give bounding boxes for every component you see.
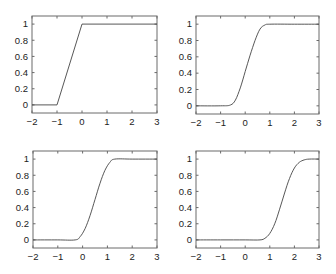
y-tick-label: 0.6 (179, 186, 192, 197)
subplot-top-right: −2−1012300.20.40.60.81 (179, 16, 322, 128)
x-tick-label: 3 (316, 117, 321, 128)
figure-2x2-subplots: −2−1012300.20.40.60.81 −2−1012300.20.40.… (0, 0, 336, 274)
y-tick-label: 0.4 (16, 202, 29, 213)
y-tick-label: 1 (23, 18, 28, 29)
y-tick-label: 0.6 (16, 186, 29, 197)
x-tick-label: 2 (130, 251, 135, 262)
axes-frame (196, 16, 319, 114)
x-tick-label: 1 (104, 116, 109, 127)
axes-frame (32, 16, 157, 113)
subplot-bottom-left: −2−1012300.20.40.60.81 (16, 151, 160, 262)
curve-smoothed-3 (196, 159, 319, 240)
x-tick-label: −2 (191, 251, 202, 262)
x-tick-label: 1 (267, 251, 272, 262)
y-tick-label: 0.6 (15, 51, 28, 62)
x-tick-label: −1 (52, 251, 63, 262)
x-tick-label: 0 (243, 251, 248, 262)
x-tick-label: 2 (292, 117, 297, 128)
y-tick-label: 1 (187, 18, 192, 29)
y-tick-label: 0.8 (179, 170, 192, 181)
y-tick-label: 1 (187, 153, 192, 164)
x-tick-label: 0 (80, 251, 85, 262)
x-tick-label: −1 (52, 116, 63, 127)
x-tick-label: 3 (316, 251, 321, 262)
x-tick-label: 3 (154, 116, 159, 127)
x-tick-label: −1 (215, 117, 226, 128)
y-tick-label: 0 (23, 99, 28, 110)
y-tick-label: 0.6 (179, 51, 192, 62)
x-tick-label: −2 (27, 116, 38, 127)
y-tick-label: 0.8 (15, 35, 28, 46)
x-tick-label: 3 (154, 251, 159, 262)
curve-smoothed-2 (33, 159, 157, 240)
y-tick-label: 0.2 (16, 218, 29, 229)
subplot-top-left: −2−1012300.20.40.60.81 (15, 16, 160, 127)
y-tick-label: 0.4 (15, 67, 28, 78)
y-tick-label: 0.4 (179, 67, 192, 78)
x-tick-label: −1 (215, 251, 226, 262)
x-tick-label: 1 (105, 251, 110, 262)
subplot-bottom-right: −2−1012300.20.40.60.81 (179, 151, 322, 262)
y-tick-label: 0 (187, 100, 192, 111)
x-tick-label: −2 (191, 117, 202, 128)
y-tick-label: 0.4 (179, 202, 192, 213)
y-tick-label: 0.8 (16, 170, 29, 181)
x-tick-label: −2 (28, 251, 39, 262)
y-tick-label: 0.2 (179, 218, 192, 229)
y-tick-label: 0.2 (179, 84, 192, 95)
x-tick-label: 0 (79, 116, 84, 127)
y-tick-label: 0.8 (179, 35, 192, 46)
y-tick-label: 0 (187, 234, 192, 245)
x-tick-label: 0 (243, 117, 248, 128)
y-tick-label: 1 (24, 153, 29, 164)
y-tick-label: 0.2 (15, 83, 28, 94)
axes-frame (196, 151, 319, 248)
curve-ramp (32, 24, 157, 105)
curve-smoothed-1 (196, 24, 319, 106)
y-tick-label: 0 (24, 234, 29, 245)
x-tick-label: 1 (267, 117, 272, 128)
x-tick-label: 2 (129, 116, 134, 127)
x-tick-label: 2 (292, 251, 297, 262)
